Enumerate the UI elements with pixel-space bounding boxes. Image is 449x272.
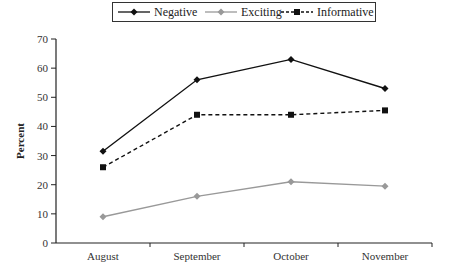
square-marker-icon [382,107,388,113]
x-tick-label: November [362,250,409,262]
square-marker-icon [294,9,300,15]
line-chart: Negative Exciting Informative Percent 01… [0,0,449,272]
square-marker-icon [194,112,200,118]
y-tick-label: 50 [37,91,49,103]
series-exciting [100,178,389,220]
square-marker-icon [288,112,294,118]
series-line [103,59,385,151]
diamond-marker-icon [131,9,138,16]
series-line [103,182,385,217]
y-tick-label: 30 [37,150,49,162]
legend-item-exciting: Exciting [205,5,282,19]
legend-label-negative: Negative [154,5,197,19]
data-series [100,56,389,220]
legend-item-informative: Informative [281,5,374,19]
series-informative [100,107,388,170]
legend-label-exciting: Exciting [241,5,282,19]
diamond-marker-icon [194,193,201,200]
legend-item-negative: Negative [118,5,197,19]
diamond-marker-icon [288,56,295,63]
y-tick-label: 40 [37,120,49,132]
diamond-marker-icon [382,85,389,92]
y-tick-label: 20 [37,179,49,191]
y-axis-ticks: 010203040506070 [37,33,56,249]
x-tick-label: October [273,250,309,262]
y-tick-label: 70 [37,33,49,45]
diamond-marker-icon [218,9,225,16]
x-axis-ticks: AugustSeptemberOctoberNovember [87,243,432,262]
y-axis-label: Percent [14,123,26,159]
diamond-marker-icon [382,183,389,190]
x-tick-label: August [87,250,119,262]
x-tick-label: September [173,250,220,262]
series-negative [100,56,389,155]
y-tick-label: 10 [37,208,49,220]
legend-label-informative: Informative [317,5,374,19]
diamond-marker-icon [100,213,107,220]
legend-items: Negative Exciting Informative [118,5,374,19]
y-tick-label: 60 [37,62,49,74]
square-marker-icon [100,164,106,170]
diamond-marker-icon [288,178,295,185]
y-tick-label: 0 [43,237,49,249]
